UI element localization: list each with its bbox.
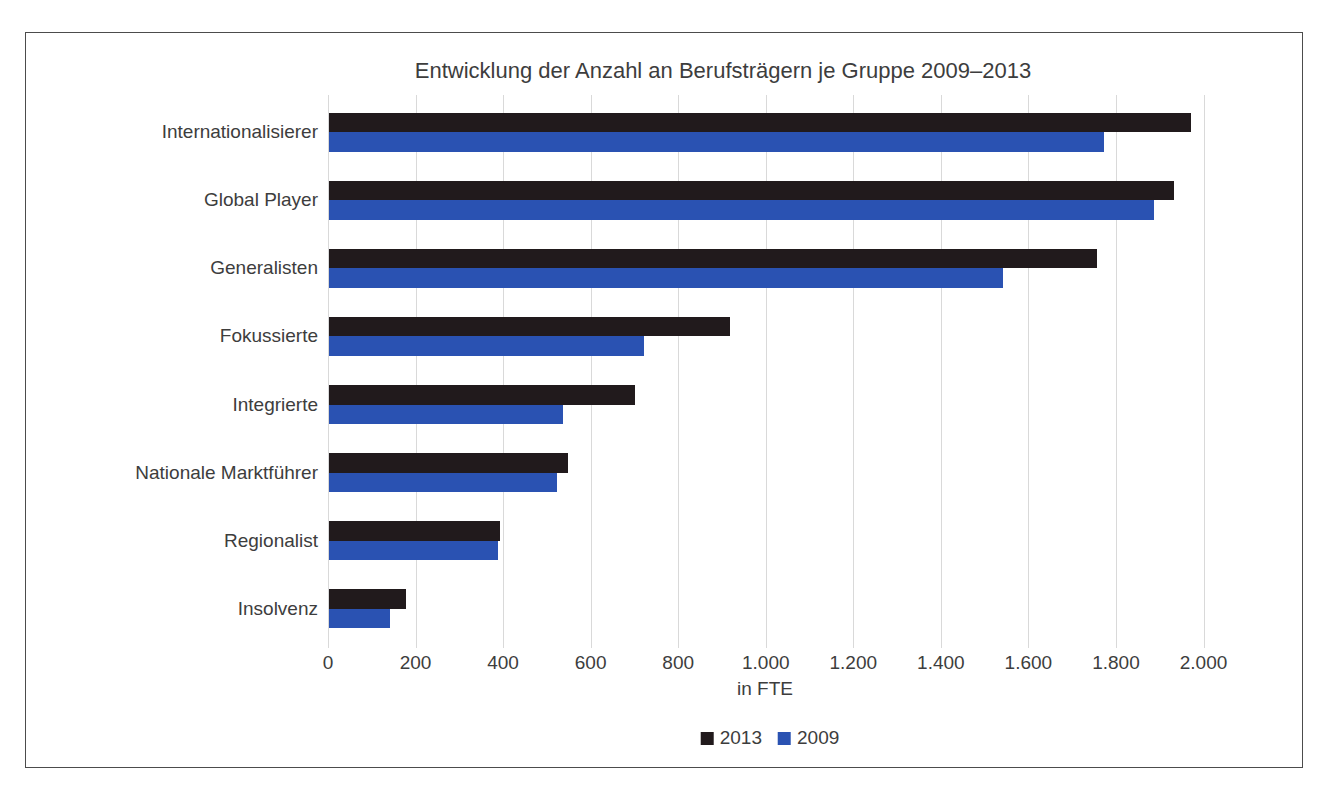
legend-swatch-2013 (701, 732, 714, 745)
bar-2009 (329, 132, 1104, 152)
gridline (1204, 95, 1205, 640)
bar-2013 (329, 521, 500, 541)
x-tick-label: 400 (458, 652, 548, 674)
axis-tick (328, 640, 329, 648)
axis-tick (503, 640, 504, 648)
x-tick-label: 2.000 (1159, 652, 1249, 674)
axis-tick (591, 640, 592, 648)
bar-2013 (329, 181, 1174, 201)
legend-swatch-2009 (778, 732, 791, 745)
axis-tick (941, 640, 942, 648)
x-tick-label: 800 (633, 652, 723, 674)
x-tick-label: 200 (371, 652, 461, 674)
bar-2013 (329, 589, 406, 609)
legend-item-2009: 2009 (778, 727, 839, 749)
bar-2013 (329, 113, 1191, 133)
bar-2013 (329, 385, 635, 405)
bar-2009 (329, 200, 1154, 220)
gridline (766, 95, 767, 640)
category-label: Insolvenz (40, 596, 318, 622)
x-tick-label: 1.000 (721, 652, 811, 674)
category-label: Internationalisierer (40, 119, 318, 145)
gridline (591, 95, 592, 640)
legend-label-2013: 2013 (720, 727, 762, 749)
chart-page: Entwicklung der Anzahl an Berufsträgern … (0, 0, 1320, 786)
plot-area: 02004006008001.0001.2001.4001.6001.8002.… (0, 0, 1320, 786)
bar-2013 (329, 317, 730, 337)
x-tick-label: 1.400 (896, 652, 986, 674)
axis-tick (1028, 640, 1029, 648)
bar-2009 (329, 268, 1003, 288)
bar-2013 (329, 249, 1097, 269)
legend: 20132009 (701, 727, 840, 749)
x-tick-label: 0 (283, 652, 373, 674)
axis-tick (766, 640, 767, 648)
bar-2009 (329, 336, 644, 356)
x-axis-label: in FTE (737, 678, 793, 700)
category-label: Nationale Marktführer (40, 460, 318, 486)
legend-label-2009: 2009 (797, 727, 839, 749)
gridline (1028, 95, 1029, 640)
gridline (1116, 95, 1117, 640)
category-label: Global Player (40, 187, 318, 213)
gridline (853, 95, 854, 640)
category-label: Generalisten (40, 255, 318, 281)
axis-tick (1116, 640, 1117, 648)
category-label: Regionalist (40, 528, 318, 554)
bar-2009 (329, 541, 498, 561)
axis-tick (1204, 640, 1205, 648)
category-label: Integrierte (40, 392, 318, 418)
axis-tick (853, 640, 854, 648)
bar-2009 (329, 405, 563, 425)
x-tick-label: 600 (546, 652, 636, 674)
bar-2009 (329, 473, 557, 493)
axis-tick (416, 640, 417, 648)
x-tick-label: 1.600 (983, 652, 1073, 674)
axis-tick (678, 640, 679, 648)
gridline (503, 95, 504, 640)
bar-2013 (329, 453, 568, 473)
category-label: Fokussierte (40, 323, 318, 349)
legend-item-2013: 2013 (701, 727, 762, 749)
gridline (941, 95, 942, 640)
gridline (678, 95, 679, 640)
x-tick-label: 1.800 (1071, 652, 1161, 674)
bar-2009 (329, 609, 390, 629)
x-tick-label: 1.200 (808, 652, 898, 674)
